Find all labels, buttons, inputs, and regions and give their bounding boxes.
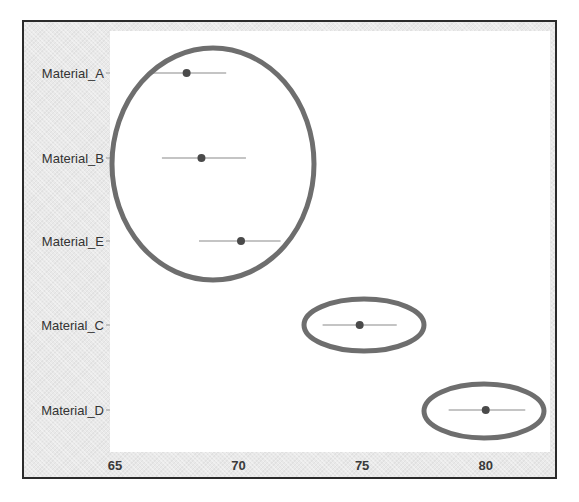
y-tick-label: Material_B (42, 151, 104, 166)
x-tick-label: 65 (108, 458, 122, 473)
y-tick-label: Material_C (41, 318, 104, 333)
y-tick-label: Material_E (42, 234, 104, 249)
x-tick-label: 75 (355, 458, 369, 473)
mean-point (237, 237, 245, 245)
x-tick-label: 80 (478, 458, 492, 473)
mean-point (183, 69, 191, 77)
mean-point (197, 154, 205, 162)
y-axis: Material_AMaterial_BMaterial_EMaterial_C… (41, 66, 110, 418)
x-tick-label: 70 (231, 458, 245, 473)
y-tick-label: Material_D (41, 403, 104, 418)
mean-point (482, 406, 490, 414)
mean-point (356, 321, 364, 329)
interval-plot: Material_AMaterial_BMaterial_EMaterial_C… (0, 0, 579, 502)
x-axis: 65707580 (108, 458, 493, 473)
y-tick-label: Material_A (42, 66, 104, 81)
plot-area (110, 31, 550, 452)
